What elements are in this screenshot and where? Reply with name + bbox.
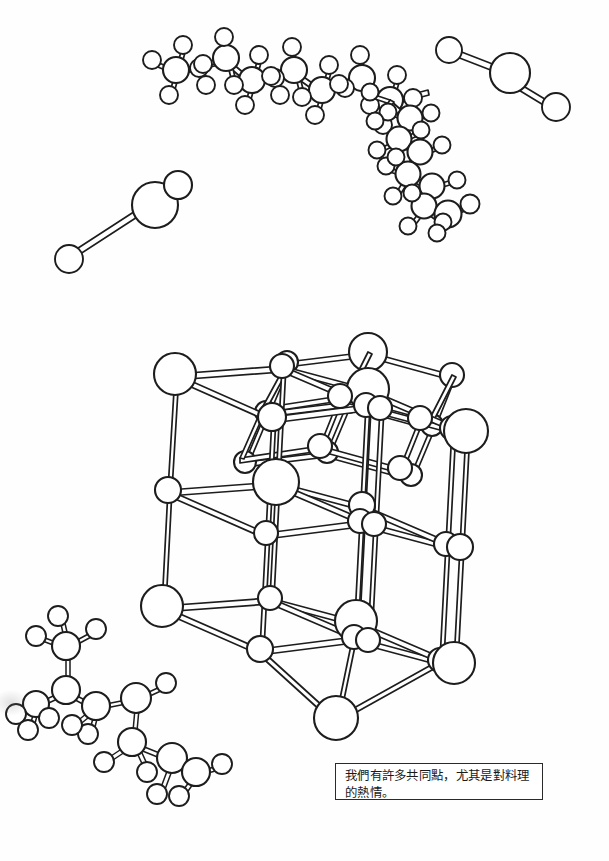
figure-crystal-lattice: [141, 333, 488, 740]
caption-text: 我們有許多共同點，尤其是對料理的熱情。: [345, 767, 534, 800]
figure-water-molecule-top-right: [436, 37, 570, 121]
figure-amino-acid-molecule: [6, 606, 232, 806]
molecular-artwork: [0, 0, 609, 861]
caption-box: 我們有許多共同點，尤其是對料理的熱情。: [335, 763, 543, 800]
page-canvas: 我們有許多共同點，尤其是對料理的熱情。: [0, 0, 609, 861]
figure-water-molecule-left: [55, 171, 192, 273]
